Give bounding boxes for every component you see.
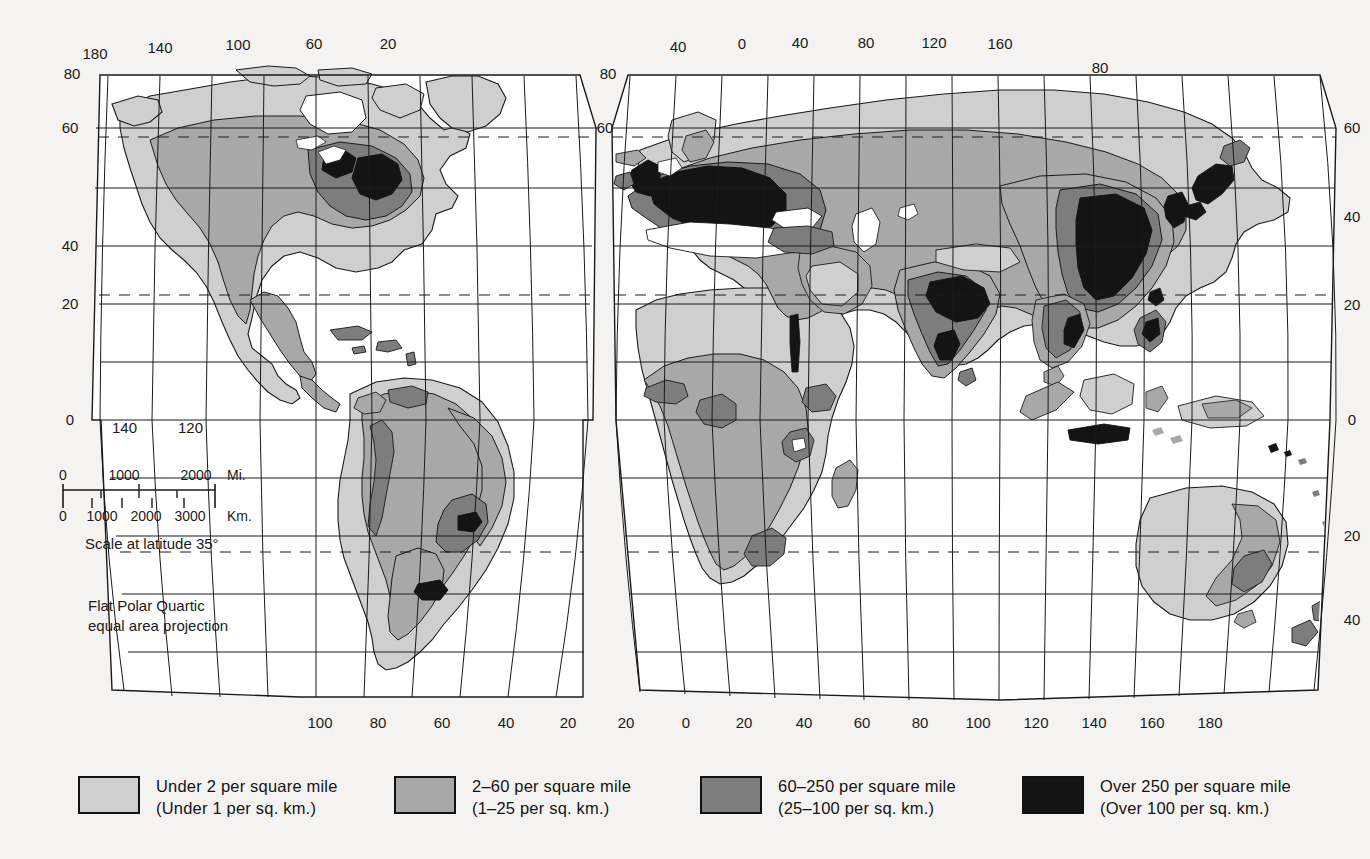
bottom-lon-label: 160 [1139,714,1164,731]
bottom-lon-label: 20 [618,714,635,731]
antilles-class3 [406,352,416,366]
bottom-lon-label: 100 [307,714,332,731]
right-lat-label: 40 [1344,611,1361,628]
left-lat-label: 40 [62,237,79,254]
scale-km-tick: 1000 [86,508,117,524]
left-lat-label: 20 [62,295,79,312]
right-lat-label: 0 [1348,411,1356,428]
bottom-lon-label: 80 [912,714,929,731]
scale-mi-tick: 1000 [108,467,139,483]
right-lat-label: 60 [1344,119,1361,136]
legend-item-3[interactable]: Over 250 per square mile (Over 100 per s… [1022,776,1291,820]
top-lon-label: 40 [670,38,687,55]
inner-left-lat-label: 60 [597,119,614,136]
population-density-map-page: 180 140 100 60 20 40 0 40 80 120 160 80 … [0,0,1370,859]
scale-mi-unit: Mi. [227,467,246,483]
top-lon-label: 140 [147,39,172,56]
bottom-lon-label: 40 [796,714,813,731]
scale-mi-tick: 2000 [180,467,211,483]
scale-km-tick: 3000 [174,508,205,524]
jamaica-class3 [352,346,366,354]
bottom-lon-label: 0 [682,714,690,731]
top-corner-lat-label: 80 [64,65,81,82]
eastern-hemisphere-panel [612,75,1336,700]
left-bottom-lon-label: 120 [178,419,203,436]
scale-mi-tick: 0 [59,467,67,483]
bottom-lon-label: 40 [498,714,515,731]
left-lat-label: 60 [62,119,79,136]
legend-swatch-class1 [78,776,140,814]
nile-valley-class4 [790,314,800,372]
top-corner-lat-label: 80 [1092,59,1109,76]
bottom-lon-label: 100 [965,714,990,731]
legend-label-2: 60–250 per square mile (25–100 per sq. k… [778,776,956,820]
top-lon-label: 180 [82,45,107,62]
legend-item-0[interactable]: Under 2 per square mile (Under 1 per sq.… [78,776,338,820]
legend-label-0: Under 2 per square mile (Under 1 per sq.… [156,776,338,820]
scale-km-tick: 2000 [130,508,161,524]
legend-line1: Under 2 per square mile [156,776,338,798]
right-lat-label: 40 [1344,208,1361,225]
bottom-lon-label: 60 [434,714,451,731]
legend-line1: 2–60 per square mile [472,776,631,798]
left-corner-lon-label: 140 [112,419,137,436]
legend-label-1: 2–60 per square mile (1–25 per sq. km.) [472,776,631,820]
top-lon-label: 160 [987,35,1012,52]
bottom-lon-label: 60 [854,714,871,731]
bottom-lon-label: 20 [736,714,753,731]
projection-note-line2: equal area projection [88,617,228,634]
right-lat-label: 20 [1344,296,1361,313]
legend-line1: 60–250 per square mile [778,776,956,798]
map-canvas: 180 140 100 60 20 40 0 40 80 120 160 80 … [0,0,1370,760]
legend-line2: (Under 1 per sq. km.) [156,798,338,820]
left-lat-label: 0 [66,411,74,428]
scale-km-tick: 0 [59,508,67,524]
top-lon-label: 0 [738,35,746,52]
legend-item-2[interactable]: 60–250 per square mile (25–100 per sq. k… [700,776,956,820]
bottom-lon-label: 20 [560,714,577,731]
legend-label-3: Over 250 per square mile (Over 100 per s… [1100,776,1291,820]
bottom-longitude-labels: 100 80 60 40 20 20 0 20 40 60 80 100 120… [307,714,1222,731]
top-lon-label: 40 [792,34,809,51]
scale-caption: Scale at latitude 35° [85,535,219,552]
bottom-lon-label: 180 [1197,714,1222,731]
top-lon-label: 120 [921,34,946,51]
legend-line2: (1–25 per sq. km.) [472,798,631,820]
bottom-lon-label: 140 [1081,714,1106,731]
legend-line1: Over 250 per square mile [1100,776,1291,798]
projection-note-line1: Flat Polar Quartic [88,597,205,614]
top-lon-label: 20 [380,35,397,52]
top-corner-lat-label: 80 [600,65,617,82]
legend-swatch-class4 [1022,776,1084,814]
legend-item-1[interactable]: 2–60 per square mile (1–25 per sq. km.) [394,776,631,820]
right-lat-label: 20 [1344,527,1361,544]
legend-swatch-class3 [700,776,762,814]
legend-line2: (Over 100 per sq. km.) [1100,798,1291,820]
top-lon-label: 100 [225,36,250,53]
top-lon-label: 80 [858,34,875,51]
world-map-svg: 180 140 100 60 20 40 0 40 80 120 160 80 … [0,0,1370,760]
top-lon-label: 60 [306,35,323,52]
bottom-lon-label: 80 [370,714,387,731]
legend: Under 2 per square mile (Under 1 per sq.… [0,762,1370,859]
scale-km-unit: Km. [227,508,252,524]
legend-line2: (25–100 per sq. km.) [778,798,956,820]
bottom-lon-label: 120 [1023,714,1048,731]
legend-swatch-class2 [394,776,456,814]
